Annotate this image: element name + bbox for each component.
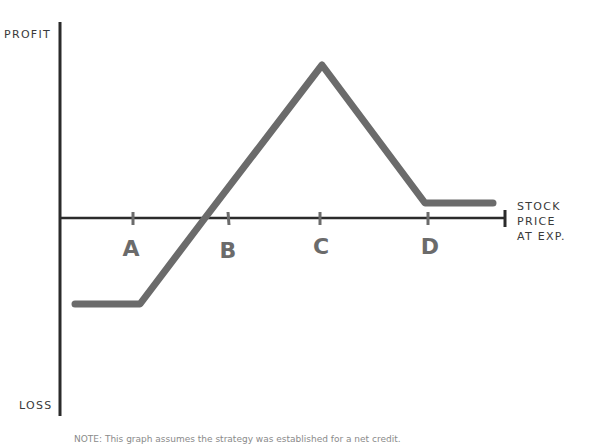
loss-label: LOSS	[19, 398, 53, 413]
x-axis-label-line2: PRICE	[517, 214, 566, 229]
tick-label-d: D	[421, 236, 439, 258]
tick-label-a: A	[122, 238, 139, 260]
x-axis-label-line3: AT EXP.	[517, 229, 566, 244]
x-axis-label: STOCK PRICE AT EXP.	[517, 199, 566, 244]
x-axis-label-line1: STOCK	[517, 199, 566, 214]
profit-label: PROFIT	[4, 27, 51, 42]
payoff-line	[75, 65, 493, 304]
footnote: NOTE: This graph assumes the strategy wa…	[74, 434, 401, 444]
tick-label-c: C	[313, 236, 329, 258]
tick-b	[228, 212, 229, 225]
tick-label-b: B	[220, 240, 237, 262]
